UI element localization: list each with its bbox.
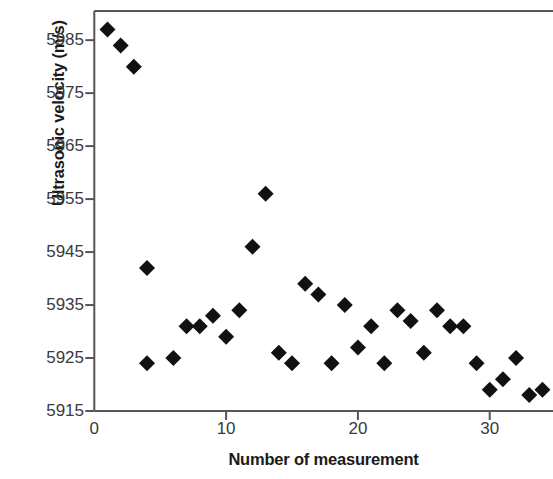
data-point-marker <box>416 345 432 361</box>
data-point-marker <box>429 302 445 318</box>
data-point-marker <box>297 276 313 292</box>
data-point-marker <box>244 239 260 255</box>
data-point-marker <box>363 318 379 334</box>
data-point-marker <box>310 286 326 302</box>
data-point-marker <box>284 355 300 371</box>
plot-area <box>0 0 553 479</box>
data-point-marker <box>495 371 511 387</box>
data-point-marker <box>350 339 366 355</box>
data-point-marker <box>218 329 234 345</box>
x-axis-tick-label: 0 <box>64 420 124 437</box>
data-point-marker <box>192 318 208 334</box>
x-axis-title: Number of measurement <box>94 450 553 469</box>
y-axis-ticks <box>85 40 94 411</box>
x-axis-tick-label: 10 <box>196 420 256 437</box>
data-point-marker <box>337 297 353 313</box>
data-point-marker <box>324 355 340 371</box>
data-point-marker <box>139 260 155 276</box>
x-axis-tick-label: 20 <box>328 420 388 437</box>
data-point-marker <box>455 318 471 334</box>
scatter-chart-figure: Ultrasonic velocity (m/s) 59155925593559… <box>0 0 553 479</box>
data-point-marker <box>231 302 247 318</box>
data-point-marker <box>482 382 498 398</box>
data-point-marker <box>376 355 392 371</box>
data-point-marker <box>99 22 115 38</box>
data-point-marker <box>205 308 221 324</box>
data-point-marker <box>113 37 129 53</box>
data-point-markers <box>99 22 550 404</box>
data-point-marker <box>165 350 181 366</box>
data-point-marker <box>126 59 142 75</box>
x-axis-tick-label: 30 <box>460 420 520 437</box>
data-point-marker <box>139 355 155 371</box>
data-point-marker <box>508 350 524 366</box>
data-point-marker <box>403 313 419 329</box>
data-point-marker <box>258 186 274 202</box>
data-point-marker <box>389 302 405 318</box>
data-point-marker <box>271 345 287 361</box>
axis-lines <box>94 11 553 411</box>
data-point-marker <box>469 355 485 371</box>
